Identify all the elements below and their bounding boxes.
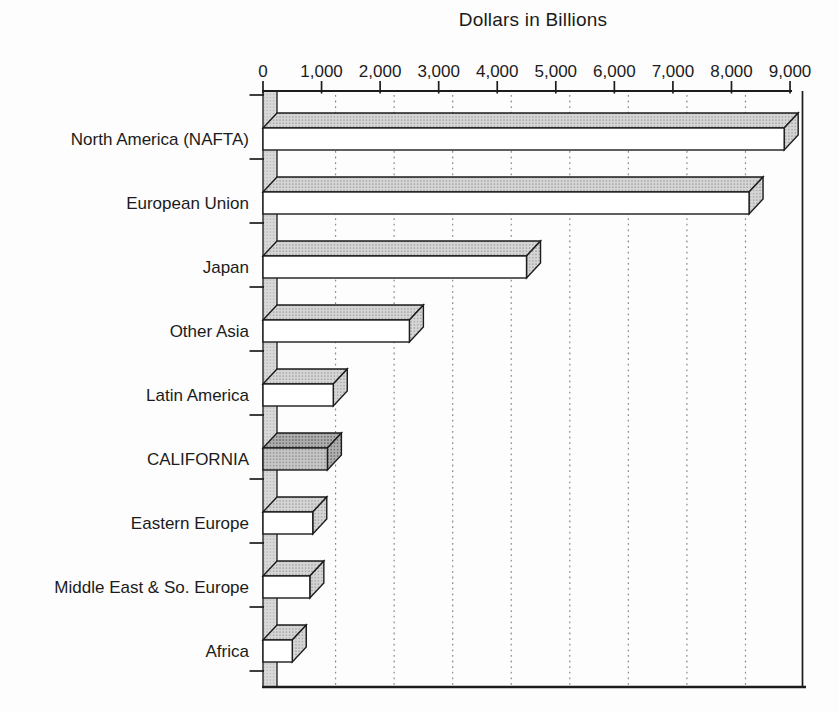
x-axis-tick-label-0: 0 — [258, 62, 267, 81]
bar-front-face — [263, 256, 527, 278]
bar-front-face — [263, 128, 784, 150]
category-label-eastern-europe: Eastern Europe — [131, 514, 249, 533]
bar-japan — [263, 241, 541, 278]
bar-front-face — [263, 192, 749, 214]
bar-top-face — [263, 113, 798, 128]
x-axis-tick-label-4000: 4,000 — [476, 62, 519, 81]
x-axis-tick-label-8000: 8,000 — [710, 62, 753, 81]
category-label-middle-east-so-europe: Middle East & So. Europe — [54, 578, 249, 597]
category-label-california: CALIFORNIA — [147, 450, 250, 469]
x-axis-tick-label-3000: 3,000 — [417, 62, 460, 81]
bar-latin-america — [263, 369, 347, 406]
category-label-other-asia: Other Asia — [170, 322, 250, 341]
x-axis-tick-label-1000: 1,000 — [300, 62, 343, 81]
category-label-north-america-nafta: North America (NAFTA) — [71, 130, 249, 149]
category-label-latin-america: Latin America — [146, 386, 250, 405]
bar-front-face — [263, 320, 409, 342]
x-axis-tick-label-6000: 6,000 — [593, 62, 636, 81]
category-label-japan: Japan — [203, 258, 249, 277]
bar-front-face — [263, 384, 333, 406]
bar-top-face — [263, 177, 763, 192]
bar-top-face — [263, 305, 423, 320]
x-axis-tick-label-9000: 9,000 — [769, 62, 812, 81]
bar-california — [263, 433, 341, 470]
bar-north-america-nafta — [263, 113, 798, 150]
bar-top-face — [263, 241, 541, 256]
x-axis-tick-label-2000: 2,000 — [359, 62, 402, 81]
x-axis-tick-label-5000: 5,000 — [535, 62, 578, 81]
bar-european-union — [263, 177, 763, 214]
bar-other-asia — [263, 305, 423, 342]
bar-middle-east-so-europe — [263, 561, 324, 598]
x-axis-tick-label-7000: 7,000 — [652, 62, 695, 81]
chart-page: Dollars in Billions 01,0002,0003,0004,00… — [0, 0, 838, 713]
bar-front-face — [263, 512, 313, 534]
category-label-africa: Africa — [206, 642, 250, 661]
category-label-european-union: European Union — [126, 194, 249, 213]
bar-front-face — [263, 640, 292, 662]
bar-chart-canvas: 01,0002,0003,0004,0005,0006,0007,0008,00… — [0, 0, 838, 713]
bar-front-face — [263, 448, 327, 470]
bar-front-face — [263, 576, 310, 598]
bar-eastern-europe — [263, 497, 327, 534]
